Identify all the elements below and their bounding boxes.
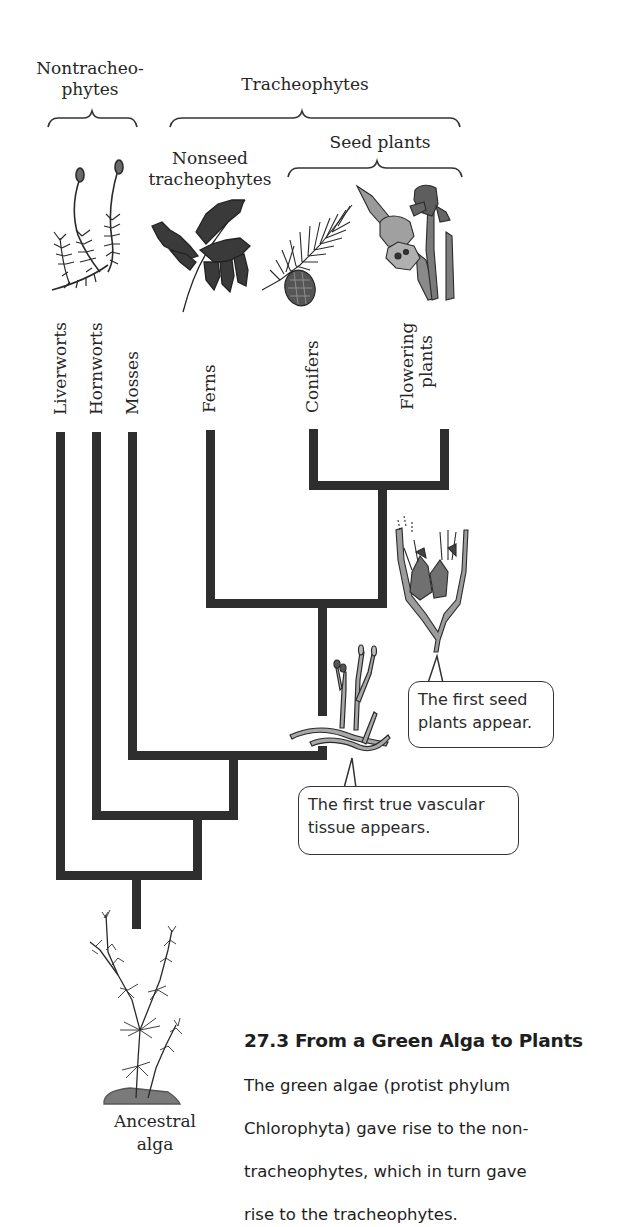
branch-ferns <box>206 430 215 608</box>
branch-mosses <box>128 432 137 760</box>
node-mosses-tracheophytes <box>128 751 327 760</box>
caption-body: The green algae (protist phylum Chloroph… <box>244 1053 630 1227</box>
root-label-ancestral-alga: Ancestral alga <box>100 1110 210 1156</box>
bracket-tracheophytes <box>170 111 460 127</box>
caption-line-3: tracheophytes, which in turn gave <box>244 1161 630 1183</box>
root-stem <box>132 871 141 929</box>
early-vascular-plant-icon <box>290 645 390 751</box>
callout-seed-line1: The first seed <box>418 688 545 711</box>
fern-icon <box>152 200 250 312</box>
taxon-label-hornworts: Hornworts <box>87 322 106 415</box>
node-tracheophytes <box>206 599 387 608</box>
taxon-label-ferns: Ferns <box>200 364 219 413</box>
taxon-label-conifers: Conifers <box>303 340 322 413</box>
node-hornworts <box>92 811 238 820</box>
conifer-icon <box>262 205 352 309</box>
caption-line-4: rise to the tracheophytes. <box>244 1204 630 1226</box>
root-label-line2: alga <box>100 1133 210 1156</box>
taxon-label-flowering-line1: Flowering <box>398 323 417 410</box>
figure-caption: 27.3 From a Green Alga to Plants The gre… <box>244 1029 630 1227</box>
caption-title: 27.3 From a Green Alga to Plants <box>244 1029 630 1053</box>
early-seed-plant-icon <box>396 516 468 652</box>
callout-first-vascular-tissue: The first true vascular tissue appears. <box>298 786 519 855</box>
callout-first-seed-plants: The first seed plants appear. <box>408 681 554 748</box>
bracket-nontracheophytes <box>48 111 137 127</box>
stem-seed-plants <box>378 481 387 608</box>
taxon-label-flowering-plants: Flowering plants <box>398 323 436 410</box>
stem-tracheophytes-upper <box>318 599 327 716</box>
iris-flower-icon <box>357 185 454 300</box>
callout-vascular-line2: tissue appears. <box>308 816 510 839</box>
taxon-label-liverworts: Liverworts <box>51 322 70 415</box>
moss-icon <box>52 160 123 290</box>
root-label-line1: Ancestral <box>100 1110 210 1133</box>
stem-mosses-tracheophytes <box>229 751 238 820</box>
caption-line-1: The green algae (protist phylum <box>244 1075 630 1097</box>
taxon-label-mosses: Mosses <box>123 351 142 415</box>
ancestral-alga-icon <box>90 910 182 1104</box>
bracket-seed-plants <box>288 161 462 177</box>
caption-line-2: Chlorophyta) gave rise to the non- <box>244 1118 630 1140</box>
branch-flowering-plants <box>440 429 449 489</box>
stem-hornworts <box>193 811 202 880</box>
branch-conifers <box>309 429 318 489</box>
branch-hornworts <box>92 432 101 820</box>
taxon-label-flowering-line2: plants <box>417 323 436 410</box>
branch-liverworts <box>56 432 65 880</box>
node-liverworts <box>56 871 202 880</box>
callout-seed-line2: plants appear. <box>418 711 545 734</box>
callout-vascular-line1: The first true vascular <box>308 793 510 816</box>
